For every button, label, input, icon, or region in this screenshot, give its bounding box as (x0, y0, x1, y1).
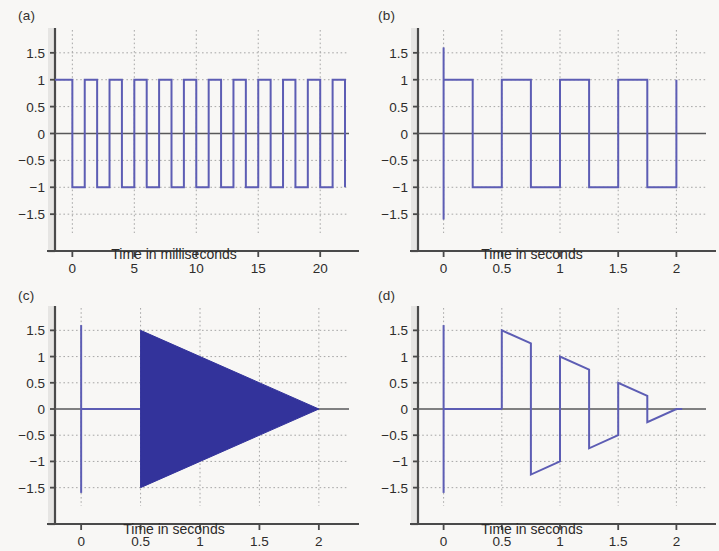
y-tick-label-1: −1 (30, 454, 45, 469)
panel-d-plot: −1.5−1−0.500.511.500.511.52 (360, 280, 719, 551)
y-tick-label-5: 1 (37, 73, 45, 88)
panel-a-xaxis-caption: Time in milliseconds (24, 246, 324, 262)
x-tick-label-2: 10 (189, 261, 204, 276)
y-tick-label-1: −1 (393, 454, 408, 469)
x-tick-label-2: 1 (556, 261, 564, 276)
x-tick-label-3: 1.5 (609, 261, 628, 276)
y-tick-label-0: −1.5 (381, 481, 408, 496)
y-tick-label-4: 0.5 (389, 376, 408, 391)
y-tick-label-1: −1 (30, 180, 45, 195)
y-tick-label-5: 1 (400, 350, 408, 365)
panel-c-xaxis-caption: Time in seconds (24, 521, 324, 537)
panel-b-plot: −1.5−1−0.500.511.500.511.52 (360, 0, 719, 280)
y-tick-label-0: −1.5 (381, 207, 408, 222)
panel-a-plot: −1.5−1−0.500.511.505101520 (0, 0, 360, 280)
panel-d-xaxis-caption: Time in seconds (382, 521, 682, 537)
y-tick-label-2: −0.5 (381, 428, 408, 443)
y-tick-label-2: −0.5 (18, 153, 45, 168)
panel-b: (b) −1.5−1−0.500.511.500.511.52 Time in … (360, 0, 719, 280)
x-tick-label-1: 0.5 (492, 261, 511, 276)
x-tick-label-4: 2 (673, 261, 681, 276)
y-tick-label-4: 0.5 (26, 376, 45, 391)
y-tick-label-0: −1.5 (18, 207, 45, 222)
y-tick-label-5: 1 (400, 73, 408, 88)
y-tick-label-6: 1.5 (389, 323, 408, 338)
x-tick-label-0: 0 (69, 261, 77, 276)
panel-b-xaxis-caption: Time in seconds (382, 246, 682, 262)
y-tick-label-0: −1.5 (18, 481, 45, 496)
panel-a: (a) −1.5−1−0.500.511.505101520 Time in m… (0, 0, 360, 280)
figure-panel-grid: (a) −1.5−1−0.500.511.505101520 Time in m… (0, 0, 719, 551)
x-tick-label-4: 20 (313, 261, 328, 276)
sawtooth-waveform (502, 330, 682, 474)
y-tick-label-2: −0.5 (381, 153, 408, 168)
y-tick-label-2: −0.5 (18, 428, 45, 443)
panel-c-plot: −1.5−1−0.500.511.500.511.52 (0, 280, 360, 551)
y-tick-label-1: −1 (393, 180, 408, 195)
y-tick-label-4: 0.5 (389, 100, 408, 115)
x-tick-label-0: 0 (440, 261, 448, 276)
panel-c: (c) −1.5−1−0.500.511.500.511.52 Time in … (0, 280, 360, 551)
y-tick-label-3: 0 (37, 127, 45, 142)
y-tick-label-6: 1.5 (389, 46, 408, 61)
x-tick-label-3: 15 (251, 261, 266, 276)
x-tick-label-1: 5 (131, 261, 139, 276)
panel-d: (d) −1.5−1−0.500.511.500.511.52 Time in … (360, 280, 719, 551)
y-tick-label-3: 0 (37, 402, 45, 417)
y-tick-label-3: 0 (400, 127, 408, 142)
y-tick-label-4: 0.5 (26, 100, 45, 115)
y-tick-label-6: 1.5 (26, 46, 45, 61)
y-tick-label-6: 1.5 (26, 323, 45, 338)
decaying-oscillation-fill (141, 330, 319, 487)
y-tick-label-5: 1 (37, 350, 45, 365)
y-tick-label-3: 0 (400, 402, 408, 417)
